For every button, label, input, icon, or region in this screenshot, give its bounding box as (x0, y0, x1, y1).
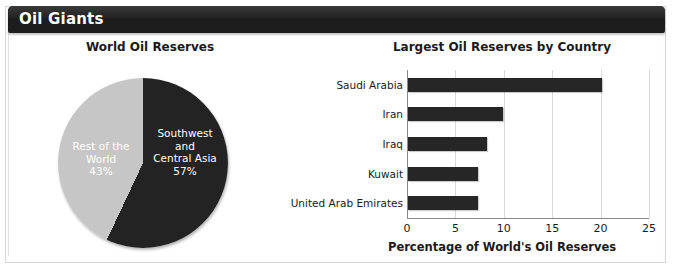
bar-category-label: Iraq (382, 138, 403, 150)
bar-category-label: Iran (382, 108, 403, 120)
pie-slice-label-line-2: and (142, 140, 228, 153)
pie-chart-title: World Oil Reserves (0, 40, 300, 54)
title-bar-highlight (8, 6, 665, 18)
pie-slice-label-southwest-central-asia: Southwest and Central Asia 57% (142, 127, 228, 177)
pie-slice-value-southwest-central-asia: 57% (142, 165, 228, 178)
bar-category-label: Saudi Arabia (336, 79, 403, 91)
x-tick-label: 0 (392, 222, 422, 235)
x-tick-label: 5 (440, 222, 470, 235)
gridline (601, 70, 602, 218)
bar-chart-x-axis (407, 218, 649, 219)
pie-slice-label-line-3: Central Asia (142, 152, 228, 165)
bar-chart-title: Largest Oil Reserves by Country (330, 40, 674, 54)
x-tick-label: 10 (489, 222, 519, 235)
pie-slice-label-rest-of-world: Rest of the World 43% (62, 140, 140, 178)
bar-chart-plot-area (407, 70, 649, 218)
figure-title: Oil Giants (19, 10, 104, 28)
bar (408, 78, 602, 92)
oil-giants-figure: Oil Giants World Oil Reserves Southwest … (0, 0, 674, 273)
bar (408, 196, 478, 210)
pie-chart: Southwest and Central Asia 57% Rest of t… (58, 78, 228, 248)
pie-slice-label-line-1: Rest of the (62, 140, 140, 153)
gridline (504, 70, 505, 218)
gridline (649, 70, 650, 218)
bar-chart-category-labels: Saudi ArabiaIranIraqKuwaitUnited Arab Em… (285, 70, 403, 218)
figure-title-bar: Oil Giants (8, 6, 665, 33)
bar (408, 107, 503, 121)
x-tick-label: 25 (634, 222, 664, 235)
bar-chart-x-axis-title: Percentage of World's Oil Reserves (330, 240, 674, 254)
bar (408, 167, 478, 181)
pie-slice-value-rest-of-world: 43% (62, 165, 140, 178)
pie-slice-label-line-1: Southwest (142, 127, 228, 140)
pie-slice-label-line-2: World (62, 153, 140, 166)
bar (408, 137, 487, 151)
bar-category-label: United Arab Emirates (291, 197, 403, 209)
bar-category-label: Kuwait (368, 168, 403, 180)
x-tick-label: 20 (586, 222, 616, 235)
gridline (552, 70, 553, 218)
x-tick-label: 15 (537, 222, 567, 235)
